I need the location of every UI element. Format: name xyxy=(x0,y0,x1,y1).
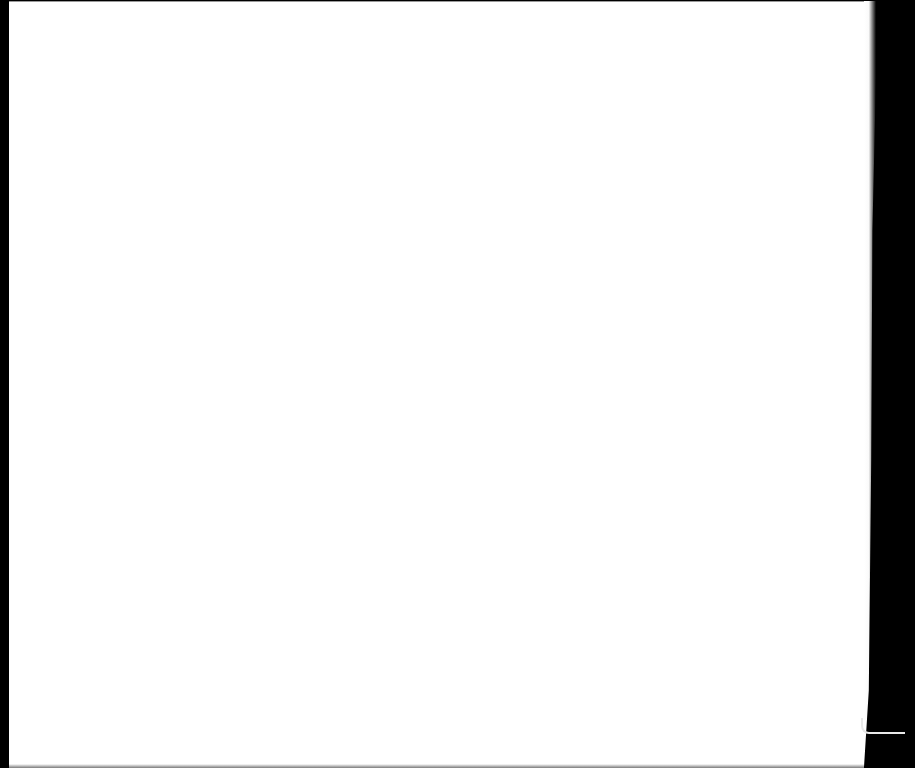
blank-page xyxy=(9,1,864,768)
paper-curl-fragment xyxy=(861,718,905,734)
page-bottom-shadow xyxy=(9,764,864,768)
page-right-edge xyxy=(864,1,876,767)
